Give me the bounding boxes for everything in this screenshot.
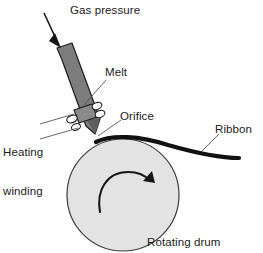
label-heating-winding-line1: Heating: [3, 146, 43, 159]
leader-line-orifice: [98, 120, 121, 136]
label-heating-winding-line2: winding: [3, 185, 43, 198]
leader-line-heating-lower: [40, 128, 78, 139]
label-gas-pressure: Gas pressure: [70, 4, 140, 17]
melt-spinning-diagram: Gas pressure Melt Orifice Heating windin…: [0, 0, 263, 253]
label-orifice: Orifice: [120, 110, 154, 123]
label-ribbon: Ribbon: [215, 123, 252, 136]
label-rotating-drum: Rotating drum: [147, 236, 221, 249]
heating-winding: [66, 101, 106, 131]
label-heating-winding: Heating winding: [3, 120, 43, 224]
label-melt: Melt: [105, 66, 127, 79]
rotating-drum: [67, 139, 179, 251]
gas-pressure-arrow: [44, 13, 61, 48]
leader-line-ribbon: [201, 134, 219, 152]
